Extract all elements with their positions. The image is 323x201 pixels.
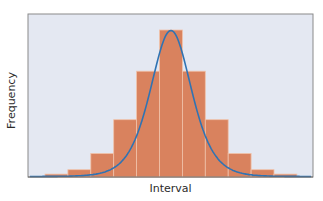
histogram-bar: [114, 120, 137, 177]
y-axis-label: Frequency: [1, 0, 21, 201]
histogram-bar: [160, 30, 183, 177]
y-axis-label-text: Frequency: [5, 72, 18, 129]
histogram-bar: [205, 120, 228, 177]
x-axis-label: Interval: [28, 182, 313, 195]
histogram-chart: [0, 0, 323, 201]
